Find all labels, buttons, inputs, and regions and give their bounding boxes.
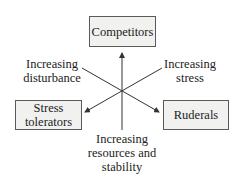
disturbance-label-line2: disturbance [22,71,82,85]
competitors-box: Competitors [89,16,156,47]
competitors-label: Competitors [92,25,154,39]
stress-tolerators-box: Stress tolerators [15,100,82,130]
stress-tolerators-label-line1: Stress [34,101,64,115]
stress-axis-label: Increasing stress [162,57,218,85]
ruderals-label: Ruderals [174,108,218,122]
disturbance-axis-line [82,68,159,112]
stress-axis-line [85,68,162,112]
ruderals-box: Ruderals [163,100,229,130]
disturbance-label-line1: Increasing [22,57,82,71]
resources-label-line1: Increasing [87,132,157,146]
resources-axis-label: Increasing resources and stability [87,132,157,174]
resources-label-line3: stability [87,160,157,174]
resources-label-line2: resources and [87,146,157,160]
disturbance-axis-label: Increasing disturbance [22,57,82,85]
stress-tolerators-label-line2: tolerators [25,115,72,129]
stress-label-line2: stress [162,71,218,85]
stress-label-line1: Increasing [162,57,218,71]
